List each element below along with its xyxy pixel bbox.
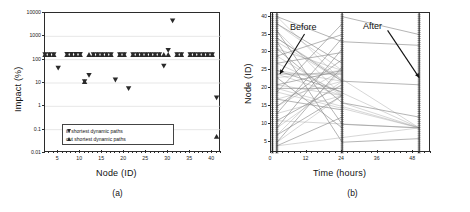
panel-a-x-minor-tick	[189, 151, 190, 153]
panel-a-x-tick-label: 15	[91, 155, 111, 161]
panel-b-y-tick-mark	[268, 123, 271, 124]
panel-b-y-tick-mark	[268, 141, 271, 142]
panel-a-y-tick-label: 1000	[18, 32, 41, 38]
panel-b-x-minor-tick	[335, 151, 336, 153]
panel-a-x-minor-tick	[92, 151, 93, 153]
panel-a-caption: (a)	[0, 188, 235, 198]
panel-b-x-minor-tick	[294, 151, 295, 153]
panel-b-y-tick-label: 5	[250, 138, 267, 144]
legend-label-out: out shortest dynamic paths	[66, 136, 126, 142]
figure-container: Impact (%) Node (ID) 1000010001001010.10…	[0, 0, 470, 212]
panel-a-y-tick-label: 10	[18, 79, 41, 85]
triangle-down-icon	[67, 129, 71, 133]
panel-a-x-tick-label: 5	[47, 155, 67, 161]
panel-a-x-axis-label: Node (ID)	[96, 168, 137, 178]
panel-a-x-minor-tick	[75, 151, 76, 153]
panel-a-x-tick-label: 30	[157, 155, 177, 161]
panel-a-y-tick-label: 1	[18, 102, 41, 108]
panel-b-canvas	[271, 13, 431, 153]
panel-a-y-tick-mark	[42, 129, 45, 130]
panel-a-x-minor-tick	[101, 151, 102, 153]
panel-a-x-minor-tick	[194, 151, 195, 153]
panel-b-x-minor-tick	[270, 151, 271, 153]
panel-b-plot-area	[270, 12, 430, 152]
panel-b-x-minor-tick	[276, 151, 277, 153]
panel-b-x-tick-label: 48	[402, 155, 422, 161]
panel-a-x-minor-tick	[220, 151, 221, 153]
panel-a-x-minor-tick	[216, 151, 217, 153]
triangle-up-icon	[67, 137, 71, 141]
panel-a-x-minor-tick	[176, 151, 177, 153]
legend-label-in: in shortest dynamic paths	[66, 128, 123, 134]
panel-a-y-tick-label: 100	[18, 56, 41, 62]
panel-b-x-minor-tick	[300, 151, 301, 153]
panel-a-x-tick-label: 25	[135, 155, 155, 161]
panel-b-x-minor-tick	[418, 151, 419, 153]
panel-a-x-minor-tick	[180, 151, 181, 153]
panel-b-y-tick-mark	[268, 69, 271, 70]
panel-b-x-minor-tick	[400, 151, 401, 153]
panel-a-x-minor-tick	[70, 151, 71, 153]
panel-a-y-tick-mark	[42, 105, 45, 106]
panel-a-x-minor-tick	[141, 151, 142, 153]
panel-a-x-minor-tick	[66, 151, 67, 153]
panel-b-y-tick-mark	[268, 87, 271, 88]
panel-b-x-minor-tick	[282, 151, 283, 153]
panel-a-x-minor-tick	[106, 151, 107, 153]
panel-a-x-minor-tick	[136, 151, 137, 153]
panel-a-x-minor-tick	[158, 151, 159, 153]
panel-b-y-tick-label: 20	[250, 84, 267, 90]
panel-a-y-tick-label: 0.1	[18, 126, 41, 132]
panel-b-x-minor-tick	[394, 151, 395, 153]
panel-b-x-minor-tick	[365, 151, 366, 153]
panel-b: Node (ID) Time (hours) 510152025303540 0…	[235, 0, 470, 212]
panel-a-x-minor-tick	[132, 151, 133, 153]
panel-b-y-tick-label: 35	[250, 31, 267, 37]
panel-b-y-tick-label: 15	[250, 102, 267, 108]
panel-b-x-minor-tick	[353, 151, 354, 153]
panel-b-x-minor-tick	[359, 151, 360, 153]
legend-item-in: in shortest dynamic paths	[66, 127, 170, 134]
panel-a-x-minor-tick	[167, 151, 168, 153]
panel-b-x-minor-tick	[317, 151, 318, 153]
panel-b-y-tick-mark	[268, 105, 271, 106]
panel-b-y-tick-mark	[268, 16, 271, 17]
panel-a-x-minor-tick	[88, 151, 89, 153]
panel-b-x-axis-label: Time (hours)	[313, 168, 366, 178]
panel-a: Impact (%) Node (ID) 1000010001001010.10…	[0, 0, 235, 212]
panel-b-x-minor-tick	[371, 151, 372, 153]
panel-b-x-minor-tick	[430, 151, 431, 153]
panel-b-x-minor-tick	[424, 151, 425, 153]
panel-a-x-tick-label: 10	[69, 155, 89, 161]
panel-a-x-minor-tick	[79, 151, 80, 153]
panel-a-x-minor-tick	[57, 151, 58, 153]
panel-a-x-minor-tick	[150, 151, 151, 153]
panel-a-y-tick-mark	[42, 12, 45, 13]
panel-b-x-minor-tick	[406, 151, 407, 153]
panel-b-y-tick-label: 25	[250, 66, 267, 72]
panel-b-x-minor-tick	[329, 151, 330, 153]
panel-b-y-tick-label: 30	[250, 48, 267, 54]
panel-a-x-minor-tick	[211, 151, 212, 153]
panel-b-x-minor-tick	[412, 151, 413, 153]
panel-a-x-minor-tick	[128, 151, 129, 153]
panel-a-x-minor-tick	[114, 151, 115, 153]
panel-a-x-minor-tick	[53, 151, 54, 153]
panel-a-y-tick-label: 10000	[18, 9, 41, 15]
annotation-before: Before	[290, 22, 317, 32]
panel-b-x-minor-tick	[383, 151, 384, 153]
panel-b-x-minor-tick	[288, 151, 289, 153]
panel-b-x-minor-tick	[311, 151, 312, 153]
panel-b-x-tick-label: 0	[260, 155, 280, 161]
panel-a-y-tick-mark	[42, 82, 45, 83]
annotation-after: After	[363, 21, 382, 31]
panel-a-x-tick-label: 35	[179, 155, 199, 161]
panel-a-y-tick-mark	[42, 35, 45, 36]
panel-a-legend: in shortest dynamic paths out shortest d…	[62, 124, 174, 145]
panel-b-x-minor-tick	[341, 151, 342, 153]
panel-b-x-minor-tick	[306, 151, 307, 153]
panel-a-x-minor-tick	[202, 151, 203, 153]
panel-b-x-tick-label: 24	[331, 155, 351, 161]
panel-a-x-minor-tick	[207, 151, 208, 153]
panel-a-x-minor-tick	[110, 151, 111, 153]
